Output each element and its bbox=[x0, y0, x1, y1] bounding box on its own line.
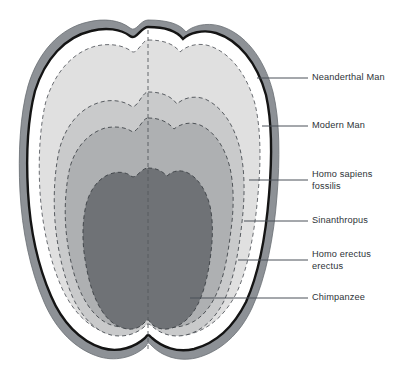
skull-diagram-figure: Neanderthal Man Modern Man Homo sapiens … bbox=[0, 0, 410, 378]
label-chimpanzee: Chimpanzee bbox=[312, 292, 365, 304]
label-neanderthal-man: Neanderthal Man bbox=[312, 72, 385, 84]
label-homo-sapiens-fossilis: Homo sapiens fossilis bbox=[312, 169, 373, 192]
label-sinanthropus: Sinanthropus bbox=[312, 215, 368, 227]
label-homo-erectus-erectus: Homo erectus erectus bbox=[312, 249, 371, 272]
label-modern-man: Modern Man bbox=[312, 120, 365, 132]
